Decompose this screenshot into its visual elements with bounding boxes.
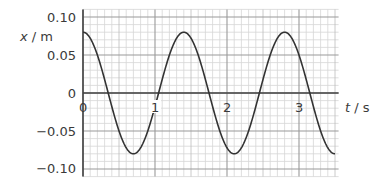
x-tick-2: 2 [223, 101, 231, 114]
x-axis-unit: / s [350, 100, 369, 115]
x-tick-1: 1 [151, 101, 159, 114]
y-tick-minus-0.05: −0.05 [6, 125, 76, 138]
y-tick-0.05: 0.05 [6, 49, 76, 62]
y-axis-unit: / m [28, 29, 53, 44]
y-tick-minus-0.10: −0.10 [6, 162, 76, 175]
y-axis-variable: x [20, 29, 28, 44]
y-tick-0.10: 0.10 [6, 11, 76, 24]
x-tick-0: 0 [79, 101, 87, 114]
axes [83, 9, 339, 176]
x-axis-title: t / s [345, 101, 370, 114]
y-axis-title: x / m [20, 30, 53, 43]
x-tick-3: 3 [295, 101, 303, 114]
y-tick-0: 0 [6, 87, 76, 100]
